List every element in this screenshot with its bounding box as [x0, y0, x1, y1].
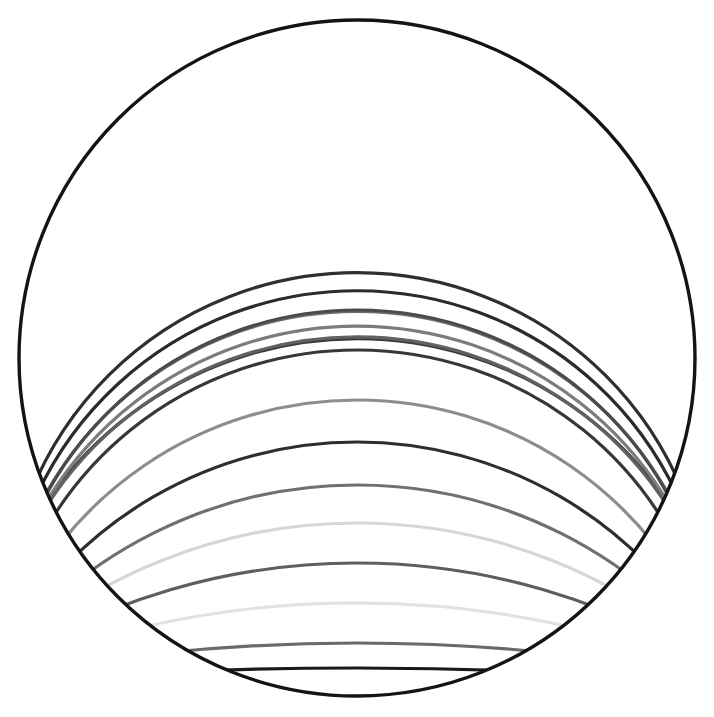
figure-background [0, 0, 714, 717]
arc-figure-svg [0, 0, 714, 717]
figure-canvas [0, 0, 714, 717]
